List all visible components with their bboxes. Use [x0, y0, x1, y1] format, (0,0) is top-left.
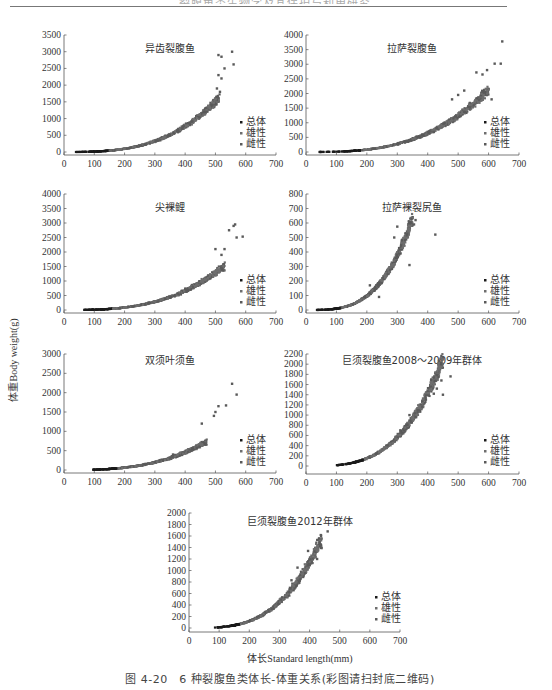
scatter-plot: 0200400600800100012001400160018002000010…: [0, 0, 552, 690]
x-axis-label: 体长Standard length(mm): [170, 650, 430, 665]
legend-label: 总体: [381, 590, 401, 602]
legend-label: 雄性: [381, 601, 401, 613]
x-tick-label: 500: [333, 636, 348, 646]
chart-title: 巨须裂腹鱼2012年群体: [247, 515, 352, 527]
y-tick-label: 1600: [167, 531, 186, 541]
y-tick-label: 1400: [167, 543, 186, 553]
legend-marker-icon: [375, 596, 378, 599]
y-tick-label: 800: [172, 577, 187, 587]
legend-label: 雌性: [381, 612, 401, 624]
y-tick-label: 1800: [167, 520, 186, 530]
y-axis-label: 体重Body weight(g): [2, 260, 22, 460]
scatter-points: [214, 530, 329, 628]
x-tick-label: 400: [302, 636, 317, 646]
x-tick-label: 700: [393, 636, 408, 646]
x-tick-label: 0: [187, 636, 192, 646]
y-tick-label: 600: [172, 589, 187, 599]
legend-marker-icon: [375, 607, 378, 610]
x-tick-label: 100: [212, 636, 227, 646]
x-tick-label: 300: [272, 636, 287, 646]
y-tick-label: 1000: [167, 566, 186, 576]
y-tick-label: 1200: [167, 554, 186, 564]
y-tick-label: 2000: [167, 508, 186, 518]
y-axis-label-text: 体重Body weight(g): [5, 318, 20, 401]
figure-caption: 图 4-20 6 种裂腹鱼类体长-体重关系(彩图请扫封底二维码): [100, 670, 460, 686]
x-tick-label: 600: [363, 636, 378, 646]
y-tick-label: 400: [172, 600, 187, 610]
y-tick-label: 0: [181, 623, 186, 633]
legend-marker-icon: [375, 618, 378, 621]
y-tick-label: 200: [172, 612, 187, 622]
chart-legend: 总体雄性雌性: [375, 590, 401, 624]
x-tick-label: 200: [242, 636, 257, 646]
